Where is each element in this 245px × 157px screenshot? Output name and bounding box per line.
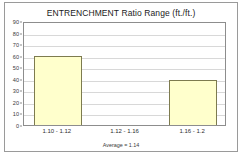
average-annotation: Average = 1.14	[5, 142, 237, 148]
x-axis: 1.10 - 1.121.12 - 1.161.16 - 1.2	[23, 128, 226, 139]
y-axis-tick-mark	[20, 22, 22, 23]
plot-area	[23, 22, 226, 126]
bar-slot	[34, 23, 82, 125]
y-axis-tick-label: 10	[13, 111, 19, 117]
x-axis-tick-label: 1.16 - 1.2	[158, 128, 226, 134]
y-axis-tick-mark	[20, 33, 22, 34]
y-axis-tick-label: 30	[13, 88, 19, 94]
y-axis-tick-label: 70	[13, 42, 19, 48]
bar[interactable]	[169, 80, 217, 125]
bar[interactable]	[34, 56, 82, 125]
y-axis-tick-label: 0	[16, 123, 19, 129]
x-axis-tick-label: 1.10 - 1.12	[23, 128, 91, 134]
y-axis-tick-mark	[20, 56, 22, 57]
x-axis-tick-label: 1.12 - 1.16	[91, 128, 159, 134]
y-axis-tick-label: 80	[13, 31, 19, 37]
chart-card: ENTRENCHMENT Ratio Range (ft./ft.) 01020…	[4, 2, 238, 152]
bar-series	[24, 23, 225, 125]
y-axis-tick-mark	[20, 91, 22, 92]
y-axis-tick-mark	[20, 68, 22, 69]
bar-slot	[169, 23, 217, 125]
y-axis-tick-mark	[20, 79, 22, 80]
y-axis-tick-label: 40	[13, 77, 19, 83]
chart-title: ENTRENCHMENT Ratio Range (ft./ft.)	[5, 8, 237, 18]
y-axis-tick-mark	[20, 126, 22, 127]
y-axis-tick-mark	[20, 45, 22, 46]
y-axis-tick-mark	[20, 102, 22, 103]
y-axis-tick-label: 50	[13, 65, 19, 71]
y-axis-tick-mark	[20, 114, 22, 115]
y-axis-tick-label: 60	[13, 54, 19, 60]
y-axis: 0102030405060708090	[5, 22, 22, 126]
y-axis-tick-label: 20	[13, 100, 19, 106]
y-axis-tick-label: 90	[13, 19, 19, 25]
bar-slot	[101, 23, 149, 125]
